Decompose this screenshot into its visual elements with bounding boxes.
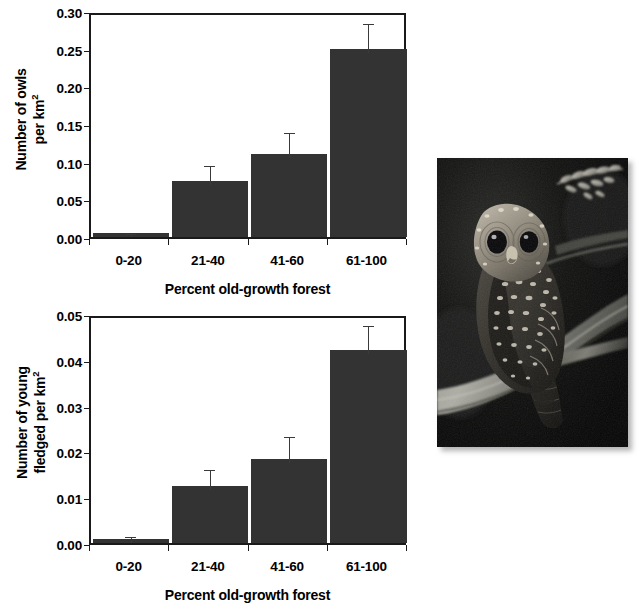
bar-21-40: [172, 181, 248, 237]
y-tick-label: 0.04: [41, 356, 82, 370]
x-tick-mark: [327, 239, 328, 245]
x-tick-mark: [327, 545, 328, 551]
error-bar-21-40: [210, 166, 211, 186]
x-tick-mark: [406, 545, 407, 551]
bar-61-100: [330, 49, 406, 237]
y-tick-mark: [84, 164, 89, 165]
x-category-label-0-20: 0-20: [89, 253, 168, 268]
y-tick-label: 0.25: [41, 45, 82, 59]
y-tick-label: 0.10: [41, 158, 82, 172]
y-tick-mark: [84, 362, 89, 363]
young-fledged-y-axis-title-line1: Number of young: [14, 366, 30, 479]
young-fledged-chart: Number of young fledged per km2 0.000.01…: [0, 305, 430, 605]
y-tick-mark: [84, 316, 89, 317]
bar-61-100: [330, 350, 406, 543]
owl-density-chart: Number of owls per km2 0.000.050.100.150…: [0, 0, 430, 300]
owl-density-plot-area: [89, 13, 406, 239]
young-fledged-plot-area: [89, 316, 406, 545]
y-tick-mark: [84, 201, 89, 202]
x-tick-mark: [168, 239, 169, 245]
x-category-label-21-40: 21-40: [168, 559, 247, 574]
error-bar-61-100: [368, 24, 369, 53]
spotted-owl-photo-image: [437, 158, 628, 447]
x-tick-mark: [168, 545, 169, 551]
y-tick-label: 0.02: [41, 447, 82, 461]
y-tick-label: 0.05: [41, 310, 82, 324]
error-bar-cap-21-40: [204, 470, 215, 471]
error-bar-cap-0-20: [125, 234, 136, 235]
y-tick-label: 0.30: [41, 7, 82, 21]
y-tick-mark: [84, 408, 89, 409]
error-bar-21-40: [210, 470, 211, 490]
x-category-label-21-40: 21-40: [168, 253, 247, 268]
error-bar-41-60: [289, 437, 290, 463]
y-tick-label: 0.00: [41, 233, 82, 247]
error-bar-61-100: [368, 326, 369, 354]
y-tick-mark: [84, 13, 89, 14]
young-fledged-bars: [91, 318, 404, 543]
bar-21-40: [172, 486, 248, 543]
x-category-label-0-20: 0-20: [89, 559, 168, 574]
y-tick-label: 0.20: [41, 82, 82, 96]
y-tick-mark: [84, 88, 89, 89]
x-category-label-41-60: 41-60: [248, 559, 327, 574]
y-tick-label: 0.05: [41, 195, 82, 209]
error-bar-cap-41-60: [284, 437, 295, 438]
error-bar-cap-0-20: [125, 537, 136, 538]
x-tick-mark: [248, 239, 249, 245]
owl-density-y-axis-exponent: 2: [28, 95, 39, 100]
y-tick-mark: [84, 51, 89, 52]
young-fledged-y-axis-exponent: 2: [29, 372, 40, 377]
y-tick-mark: [84, 126, 89, 127]
x-category-label-61-100: 61-100: [327, 253, 406, 268]
owl-density-y-axis-title-line1: Number of owls: [13, 68, 29, 170]
x-category-label-41-60: 41-60: [248, 253, 327, 268]
y-tick-label: 0.01: [41, 493, 82, 507]
error-bar-cap-61-100: [363, 24, 374, 25]
owl-density-x-axis-title: Percent old-growth forest: [89, 281, 406, 297]
x-tick-mark: [89, 239, 90, 245]
young-fledged-x-axis-title: Percent old-growth forest: [89, 587, 406, 603]
y-tick-label: 0.15: [41, 120, 82, 134]
bar-41-60: [251, 459, 327, 543]
x-category-label-61-100: 61-100: [327, 559, 406, 574]
x-tick-mark: [89, 545, 90, 551]
error-bar-cap-61-100: [363, 326, 374, 327]
y-tick-label: 0.00: [41, 539, 82, 553]
x-tick-mark: [406, 239, 407, 245]
y-tick-mark: [84, 453, 89, 454]
owl-density-bars: [91, 15, 404, 237]
x-tick-mark: [248, 545, 249, 551]
bar-41-60: [251, 154, 327, 237]
y-tick-label: 0.03: [41, 402, 82, 416]
error-bar-cap-41-60: [284, 133, 295, 134]
error-bar-41-60: [289, 133, 290, 158]
y-tick-mark: [84, 499, 89, 500]
spotted-owl-photo: [437, 158, 628, 447]
error-bar-cap-21-40: [204, 166, 215, 167]
